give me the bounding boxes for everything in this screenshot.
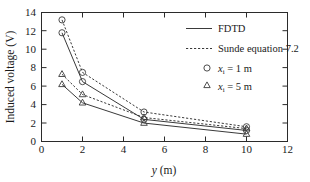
x-tick-label: 2: [80, 143, 86, 155]
y-tick-label: 12: [25, 25, 36, 37]
legend-label-sunde: Sunde equation 7.2: [218, 43, 299, 54]
legend-xi-5m-value: = 5 m: [225, 81, 252, 92]
plot-frame: [42, 13, 288, 142]
chart-legend: FDTD Sunde equation 7.2 xi = 1 m xi = 5 …: [186, 23, 299, 94]
legend-label-fdtd: FDTD: [218, 23, 246, 34]
data-point-marker: [59, 81, 66, 87]
legend-label-xi-1m: xi = 1 m: [217, 63, 252, 77]
chart-figure: 0 2 4 6 8 10 12 0 2 4 6 8 10 12 14 Induc…: [0, 0, 310, 182]
induced-voltage-line-chart: 0 2 4 6 8 10 12 0 2 4 6 8 10 12 14 Induc…: [0, 0, 310, 182]
x-tick-labels: 0 2 4 6 8 10 12: [39, 143, 293, 155]
y-tick-label: 4: [31, 98, 37, 110]
legend-triangle-marker: [204, 82, 210, 88]
y-tick-label: 14: [25, 6, 37, 18]
data-series-layer: [59, 17, 250, 137]
legend-xi-1m-value: = 1 m: [225, 63, 252, 74]
x-tick-label: 12: [282, 143, 293, 155]
x-tick-label: 0: [39, 143, 45, 155]
y-tick-label: 6: [31, 80, 37, 92]
series-line-2: [62, 84, 247, 134]
y-tick-label: 10: [25, 43, 37, 55]
x-axis-ticks: [42, 13, 288, 142]
x-tick-label: 8: [203, 143, 209, 155]
x-axis-title: y (m): [151, 164, 177, 177]
y-tick-label: 8: [31, 61, 37, 73]
x-tick-label: 6: [162, 143, 168, 155]
y-tick-label: 2: [31, 117, 37, 129]
data-point-marker: [59, 71, 66, 77]
x-tick-label: 10: [241, 143, 253, 155]
legend-circle-marker: [204, 65, 210, 71]
y-tick-label: 0: [31, 135, 37, 147]
x-tick-label: 4: [121, 143, 127, 155]
legend-label-xi-5m: xi = 5 m: [217, 81, 252, 95]
y-axis-ticks: [42, 13, 288, 142]
x-axis-title-unit: (m): [157, 164, 177, 177]
y-tick-labels: 0 2 4 6 8 10 12 14: [25, 6, 37, 147]
y-axis-title: Induced voltage (V): [4, 31, 17, 124]
